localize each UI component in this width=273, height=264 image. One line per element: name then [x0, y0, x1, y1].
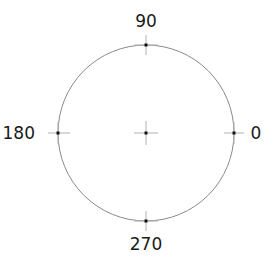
marker-180 — [48, 122, 70, 144]
polar-diagram: 90 180 0 270 — [0, 0, 273, 264]
center-marker — [134, 121, 158, 145]
label-270: 270 — [130, 234, 162, 254]
marker-0 — [224, 122, 244, 144]
label-180: 180 — [3, 123, 35, 143]
marker-90 — [134, 35, 158, 55]
marker-270 — [134, 211, 158, 231]
label-0: 0 — [251, 123, 262, 143]
label-90: 90 — [135, 11, 157, 31]
